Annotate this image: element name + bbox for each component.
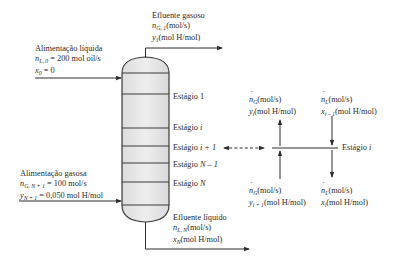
liquid-effluent-label: Efluente líquido nL, N(mol/s) xN(mol H/m… <box>173 213 227 248</box>
liquid-feed-title: Alimentação líquida <box>35 44 103 54</box>
gas-feed-label: Alimentação gasosa nG, N + 1 = 100 mol/s… <box>20 169 103 204</box>
stage-liquid-in-label: nL(mol/s) xi – 1(mol H/mol) <box>321 95 377 119</box>
gas-feed-title: Alimentação gasosa <box>20 169 103 179</box>
stage-label-i: Estágio i <box>173 123 202 133</box>
stage-gas-in-label: nG(mol/s) yi + 1(mol H/mol) <box>249 186 306 210</box>
stage-label-1: Estágio 1 <box>173 92 204 102</box>
gas-effluent-stream <box>146 48 223 57</box>
stage-gas-out-label: nG(mol/s) yi(mol H/mol) <box>249 95 296 119</box>
liquid-feed-flow: nL, 0 = 200 mol oil/s <box>35 54 103 66</box>
gas-feed-composition: yN + 1 = 0,050 mol H/mol <box>20 191 103 203</box>
gas-effluent-title: Efluente gasoso <box>152 11 205 21</box>
liquid-feed-label: Alimentação líquida nL, 0 = 200 mol oil/… <box>35 44 103 79</box>
gas-feed-flow: nG, N + 1 = 100 mol/s <box>20 179 103 191</box>
liquid-effluent-title: Efluente líquido <box>173 213 227 223</box>
gas-effluent-label: Efluente gasoso nG, 1(mol/s) y1(mol H/mo… <box>152 11 205 46</box>
stage-label-i-plus-1: Estágio i + 1 <box>173 143 216 153</box>
liquid-effluent-composition: xN(mol H/mol) <box>173 235 227 247</box>
liquid-feed-composition: x0 = 0 <box>35 66 103 78</box>
stage-label-n-minus-1: Estágio N – 1 <box>173 160 218 170</box>
absorption-column <box>122 57 169 222</box>
stage-i-detail-label: Estágio i <box>342 143 371 153</box>
stage-i-detail <box>272 116 338 179</box>
stage-liquid-out-label: nL(mol/s) xi(mol H/mol) <box>321 186 368 210</box>
gas-effluent-flow: nG, 1(mol/s) <box>152 21 205 33</box>
gas-effluent-composition: y1(mol H/mol) <box>152 33 205 45</box>
liquid-effluent-flow: nL, N(mol/s) <box>173 223 227 235</box>
stage-label-n: Estágio N <box>173 179 206 189</box>
